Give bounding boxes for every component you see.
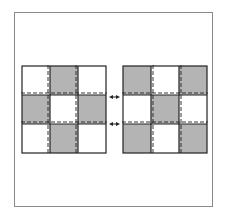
double-arrows [109, 95, 120, 126]
right-grid-cell-0-2 [179, 66, 207, 95]
arrow-left-head-icon [109, 122, 113, 126]
left-grid-cell-0-1 [50, 66, 78, 95]
left-grid-cell-2-2 [78, 124, 106, 153]
arrow-right-head-icon [116, 95, 120, 99]
right-grid-cell-0-0 [123, 66, 151, 95]
left-grid-cell-0-0 [22, 66, 50, 95]
left-grid-cell-0-2 [78, 66, 106, 95]
left-grid-cell-2-0 [22, 124, 50, 153]
arrow-left-head-icon [109, 95, 113, 99]
right-grid-cell-2-0 [123, 124, 151, 153]
left-grid-cell-1-2 [78, 95, 106, 124]
left-grid-cell-1-1 [50, 95, 78, 124]
diagram-canvas [0, 0, 226, 213]
left-checkerboard-grid [21, 65, 107, 154]
right-checkerboard-grid [122, 65, 208, 154]
right-grid-cell-2-2 [179, 124, 207, 153]
right-grid-cell-1-0 [123, 95, 151, 124]
right-grid-cell-1-1 [151, 95, 179, 124]
left-grid-cell-1-0 [22, 95, 50, 124]
right-grid-cell-1-2 [179, 95, 207, 124]
right-grid-cell-2-1 [151, 124, 179, 153]
left-grid-cell-2-1 [50, 124, 78, 153]
right-grid-cell-0-1 [151, 66, 179, 95]
arrow-right-head-icon [116, 122, 120, 126]
